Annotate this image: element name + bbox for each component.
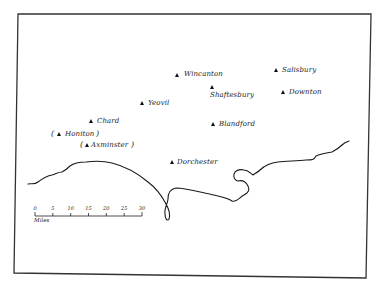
triangle-marker-icon xyxy=(210,85,214,89)
place-label: Axminster xyxy=(91,141,128,149)
scale-tick-label: 0 xyxy=(33,205,36,211)
triangle-marker-icon xyxy=(175,73,179,77)
place-label: Wincanton xyxy=(184,70,223,78)
open-paren: ( xyxy=(80,140,83,149)
open-paren: ( xyxy=(51,129,54,138)
place-label: Dorchester xyxy=(177,158,218,166)
scale-tick-label: 20 xyxy=(103,205,109,211)
triangle-marker-icon xyxy=(85,143,89,147)
triangle-marker-icon xyxy=(57,132,61,136)
scale-bar xyxy=(35,212,142,216)
triangle-marker-icon xyxy=(170,160,174,164)
triangle-marker-icon xyxy=(140,101,144,105)
place-label: Blandford xyxy=(219,120,255,128)
close-paren: ) xyxy=(131,140,134,149)
place-label: Honiton xyxy=(65,130,94,138)
map-canvas xyxy=(0,0,383,290)
scale-unit-label: Miles xyxy=(34,217,49,223)
place-label: Salisbury xyxy=(282,66,316,74)
place-label: Shaftesbury xyxy=(210,91,254,99)
map-frame xyxy=(14,14,371,278)
triangle-marker-icon xyxy=(89,119,93,123)
triangle-marker-icon xyxy=(281,90,285,94)
scale-tick-label: 25 xyxy=(121,205,127,211)
coastline xyxy=(28,141,349,220)
triangle-marker-icon xyxy=(274,68,278,72)
scale-tick-label: 5 xyxy=(51,205,54,211)
scale-tick-label: 15 xyxy=(85,205,91,211)
scale-tick-label: 10 xyxy=(68,205,74,211)
triangle-marker-icon xyxy=(211,122,215,126)
place-label: Downton xyxy=(289,88,322,96)
place-label: Yeovil xyxy=(148,99,169,107)
place-label: Chard xyxy=(97,117,119,125)
scale-tick-label: 30 xyxy=(139,205,145,211)
close-paren: ) xyxy=(96,129,99,138)
